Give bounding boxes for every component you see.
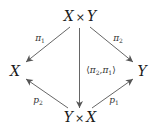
times-symbol: ×: [74, 11, 87, 24]
node-bottom-left: Y: [64, 109, 73, 125]
node-right: Y: [137, 64, 146, 78]
node-bottom-product: Y×X: [64, 110, 96, 124]
times-symbol: ×: [73, 112, 86, 125]
node-left: X: [10, 64, 20, 78]
node-bottom-right: X: [86, 109, 96, 125]
label-pi2: π2: [113, 34, 123, 44]
label-pi1: π1: [35, 34, 45, 44]
node-top-right: Y: [87, 8, 96, 24]
label-pair: ⟨π2,π1⟩: [86, 66, 115, 76]
label-p1: p1: [109, 96, 119, 106]
commutative-diagram: X×Y X Y Y×X π1 π2 ⟨π2,π1⟩ p2 p1: [0, 0, 153, 131]
arrow-pi2: [90, 27, 133, 62]
label-p2: p2: [33, 96, 43, 106]
node-top-product: X×Y: [64, 9, 96, 23]
node-top-left: X: [64, 8, 74, 24]
arrow-pi1: [26, 27, 70, 62]
